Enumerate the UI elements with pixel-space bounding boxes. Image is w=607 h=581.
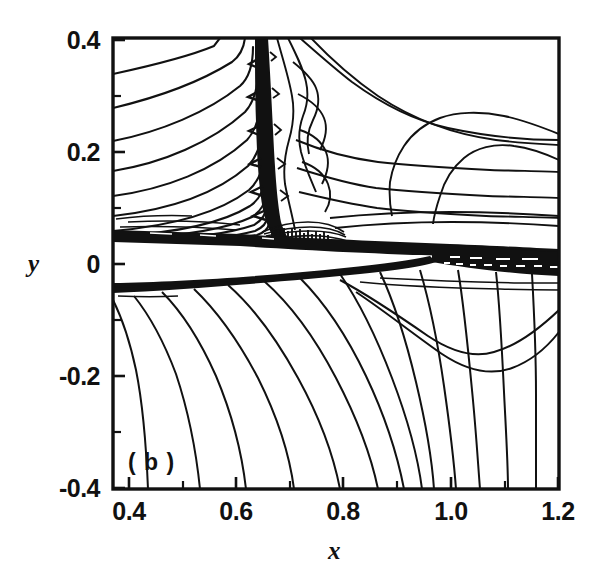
y-tick-label-2: 0 [30,250,100,279]
x-tick-label-1: 0.6 [211,497,261,526]
y-tick-label-0: 0.4 [30,26,100,55]
y-axis-title: y [28,250,39,278]
y-tick-label-3: -0.2 [18,362,100,391]
x-tick-label-4: 1.2 [533,497,583,526]
y-tick-label-1: 0.2 [30,138,100,167]
x-tick-label-2: 0.8 [318,497,368,526]
x-tick-label-3: 1.0 [426,497,476,526]
x-axis-title: x [328,537,341,565]
panel-label: ( b ) [128,449,175,476]
x-tick-label-0: 0.4 [104,497,154,526]
contour-figure: 0.4 0.2 0 -0.2 -0.4 0.4 0.6 0.8 1.0 1.2 … [0,0,607,581]
y-tick-label-4: -0.4 [18,474,100,503]
